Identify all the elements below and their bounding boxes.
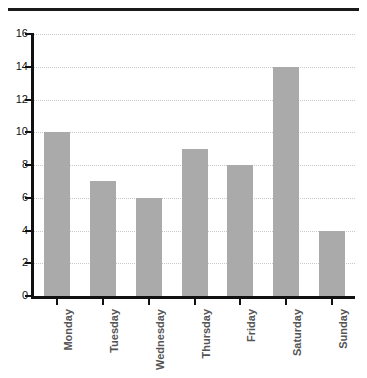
bar [227,165,253,296]
y-axis-tick-label: 6 [22,192,28,203]
x-axis-tick-label: Monday [62,309,74,351]
x-axis-tick [285,299,287,305]
x-axis-tick [194,299,196,305]
gridline [34,100,355,101]
y-axis-tick-label: 12 [16,94,28,105]
x-axis-tick-label: Wednesday [154,309,166,370]
y-axis-tick-label: 2 [22,257,28,268]
y-axis-tick-label: 4 [22,225,28,236]
y-axis-tick-label: 8 [22,159,28,170]
bar [90,181,116,296]
x-axis-tick-label: Saturday [291,309,303,356]
x-axis-tick-label: Thursday [200,309,212,359]
bar [273,67,299,296]
bar [182,149,208,296]
x-axis-tick [239,299,241,305]
y-axis-tick-label: 0 [22,290,28,301]
bar [44,132,70,296]
x-axis-tick-label: Friday [245,309,257,342]
gridline [34,132,355,133]
x-axis-tick-label: Sunday [337,309,349,349]
x-axis-tick [56,299,58,305]
y-axis-tick-label: 10 [16,126,28,137]
y-axis-line [31,33,34,299]
y-axis-tick-label: 16 [16,28,28,39]
x-axis-tick-label: Tuesday [108,309,120,353]
bar [136,198,162,296]
x-axis-tick [331,299,333,305]
x-axis-tick [148,299,150,305]
gridline [34,34,355,35]
gridline [34,67,355,68]
plot-area [34,34,355,296]
x-axis-tick [102,299,104,305]
y-axis-tick-label: 14 [16,61,28,72]
bar [319,231,345,297]
bar-chart: 0246810121416 MondayTuesdayWednesdayThur… [0,0,367,378]
